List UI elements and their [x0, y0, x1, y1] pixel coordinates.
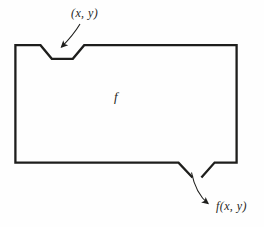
output-label: f(x, y): [216, 200, 247, 212]
output-arrow: [192, 173, 209, 204]
input-label: (x, y): [71, 7, 98, 19]
function-label: f: [114, 90, 118, 103]
input-arrow: [62, 24, 81, 47]
function-machine-diagram: (x, y) f f(x, y): [0, 0, 264, 227]
machine-outline: [15, 45, 236, 177]
diagram-canvas: [0, 0, 264, 227]
